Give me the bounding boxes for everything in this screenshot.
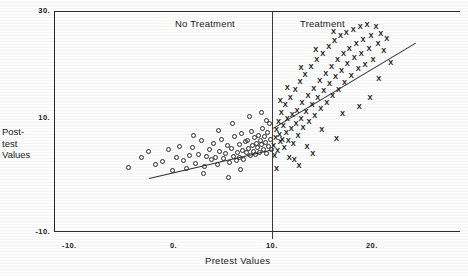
data-marker-layer (0, 0, 468, 276)
data-point-x-marker (362, 61, 369, 68)
data-point-circle-marker (229, 146, 234, 151)
y-tick-10: 10. (26, 113, 50, 122)
x-axis-title: Pretest Values (205, 255, 270, 266)
x-tick-10: 10. (266, 241, 278, 250)
data-point-circle-marker (259, 110, 264, 115)
data-point-x-marker (357, 23, 364, 30)
data-point-x-marker (282, 101, 289, 108)
data-point-circle-marker (219, 137, 224, 142)
data-point-x-marker (273, 165, 280, 172)
data-point-x-marker (305, 118, 312, 125)
data-point-x-marker (344, 60, 351, 67)
data-point-circle-marker (139, 155, 144, 160)
data-point-circle-marker (216, 128, 221, 133)
data-point-circle-marker (174, 155, 179, 160)
data-point-x-marker (360, 36, 367, 43)
data-point-x-marker (292, 86, 299, 93)
data-point-circle-marker (191, 133, 196, 138)
data-point-circle-marker (126, 165, 131, 170)
data-point-x-marker (346, 45, 353, 52)
data-point-x-marker (309, 150, 316, 157)
data-point-circle-marker (204, 154, 209, 159)
data-point-circle-marker (254, 141, 259, 146)
data-point-x-marker (291, 156, 298, 163)
data-point-x-marker (383, 35, 390, 42)
data-point-x-marker (283, 129, 290, 136)
data-point-circle-marker (252, 135, 257, 140)
data-point-circle-marker (266, 144, 271, 149)
data-point-x-marker (323, 99, 330, 106)
data-point-x-marker (372, 23, 379, 30)
data-point-x-marker (320, 87, 327, 94)
y-axis-title: Post- test Values (2, 126, 52, 161)
data-point-x-marker (277, 97, 284, 104)
data-point-x-marker (295, 132, 302, 139)
data-point-circle-marker (181, 158, 186, 163)
y-axis-title-line-1: Post- (2, 126, 52, 138)
data-point-x-marker (279, 136, 286, 143)
data-point-x-marker (355, 65, 362, 72)
data-point-x-marker (333, 135, 340, 142)
data-point-circle-marker (226, 175, 231, 180)
data-point-circle-marker (258, 138, 263, 143)
data-point-x-marker (293, 120, 300, 127)
data-point-x-marker (303, 143, 310, 150)
data-point-circle-marker (238, 167, 243, 172)
data-point-circle-marker (160, 159, 165, 164)
data-point-circle-marker (237, 142, 242, 147)
data-point-circle-marker (217, 149, 222, 154)
data-point-x-marker (304, 92, 311, 99)
data-point-x-marker (338, 67, 345, 74)
y-axis-title-line-3: Values (2, 149, 52, 161)
data-point-circle-marker (225, 143, 230, 148)
data-point-x-marker (364, 21, 371, 28)
data-point-x-marker (328, 63, 335, 70)
data-point-circle-marker (262, 134, 267, 139)
data-point-circle-marker (256, 133, 261, 138)
data-point-x-marker (300, 124, 307, 131)
data-point-x-marker (367, 94, 374, 101)
data-point-circle-marker (249, 129, 254, 134)
data-point-circle-marker (263, 140, 268, 145)
data-point-x-marker (331, 37, 338, 44)
data-point-x-marker (307, 63, 314, 70)
data-point-x-marker (298, 64, 305, 71)
data-point-circle-marker (260, 126, 265, 131)
data-point-x-marker (276, 131, 283, 138)
data-point-circle-marker (230, 121, 235, 126)
x-tick-0: 0. (170, 241, 177, 250)
data-point-x-marker (281, 144, 288, 151)
data-point-x-marker (274, 147, 281, 154)
data-point-x-marker (299, 99, 306, 106)
y-tick-30: 30. (26, 6, 50, 15)
data-point-x-marker (374, 40, 381, 47)
data-point-circle-marker (207, 147, 212, 152)
data-point-circle-marker (264, 118, 269, 123)
data-point-circle-marker (246, 146, 251, 151)
data-point-circle-marker (193, 161, 198, 166)
data-point-x-marker (343, 29, 350, 36)
data-point-circle-marker (255, 145, 260, 150)
data-point-circle-marker (196, 152, 201, 157)
data-point-circle-marker (166, 147, 171, 152)
data-point-circle-marker (232, 134, 237, 139)
data-point-x-marker (339, 110, 346, 117)
data-point-x-marker (288, 125, 295, 132)
data-point-circle-marker (247, 114, 252, 119)
data-point-circle-marker (146, 149, 151, 154)
data-point-x-marker (316, 77, 323, 84)
data-point-circle-marker (235, 150, 240, 155)
panel-divider-line (272, 11, 273, 239)
data-point-circle-marker (153, 162, 158, 167)
data-point-x-marker (284, 84, 291, 91)
data-point-x-marker (286, 154, 293, 161)
data-point-x-marker (350, 26, 357, 33)
data-point-circle-marker (245, 138, 250, 143)
data-point-x-marker (368, 32, 375, 39)
x-tick-minus-10: -10. (62, 241, 77, 250)
panel-label-no-treatment: No Treatment (175, 18, 235, 29)
data-point-x-marker (366, 45, 373, 52)
panel-label-treatment: Treatment (300, 18, 345, 29)
data-point-x-marker (297, 78, 304, 85)
data-point-circle-marker (177, 144, 182, 149)
